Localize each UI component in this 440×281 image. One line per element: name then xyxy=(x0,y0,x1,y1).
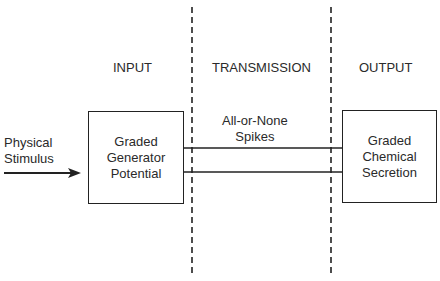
section-label-input: INPUT xyxy=(113,60,152,76)
section-label-transmission: TRANSMISSION xyxy=(212,60,311,76)
stimulus-label: Physical Stimulus xyxy=(4,135,54,167)
input-box-label: Graded Generator Potential xyxy=(107,134,166,182)
output-box-label: Graded Chemical Secretion xyxy=(362,133,417,181)
section-label-output: OUTPUT xyxy=(359,60,412,76)
stimulus-arrow-icon xyxy=(4,168,81,178)
output-box: Graded Chemical Secretion xyxy=(342,110,437,203)
transmission-spikes-label: All-or-None Spikes xyxy=(222,113,288,145)
input-box: Graded Generator Potential xyxy=(88,111,184,204)
